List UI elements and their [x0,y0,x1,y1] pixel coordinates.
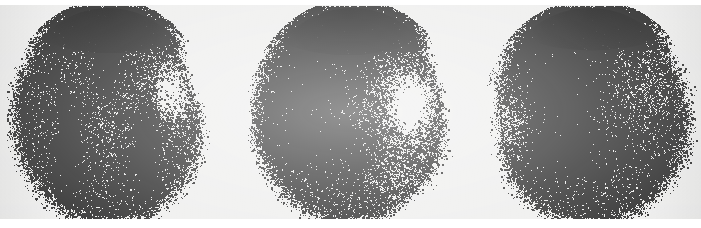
scan-image-2 [234,0,468,228]
scan-image-1 [0,0,234,228]
scan-image-3 [467,0,701,228]
scan-panel-2 [234,0,468,228]
scan-panel-1 [0,0,234,228]
scintigram-film [0,0,701,228]
scan-panel-3 [467,0,701,228]
